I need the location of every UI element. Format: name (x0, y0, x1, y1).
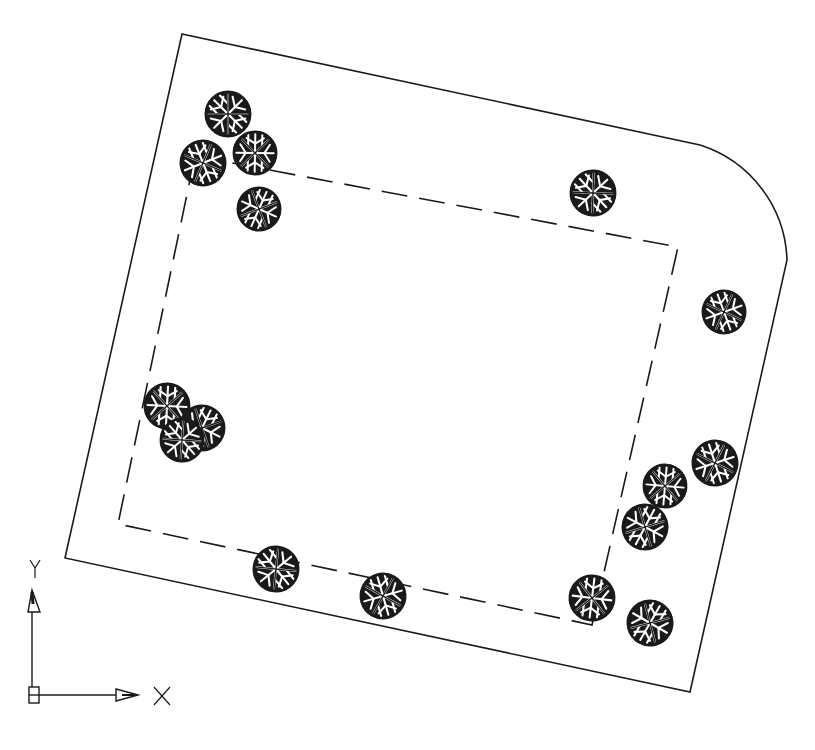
x-axis-label-glyph (154, 687, 170, 705)
site-plan-drawing: X Y (0, 0, 815, 750)
inner-setback-dashed (118, 156, 678, 625)
tree-symbol-icon (231, 181, 288, 238)
tree-symbol-icon (205, 91, 251, 137)
tree-symbol-icon (569, 169, 617, 217)
tree-symbol-icon (560, 566, 625, 631)
tree-symbol-icon (173, 133, 233, 193)
tree-symbol-icon (251, 544, 302, 595)
tree-symbol-icon (352, 565, 415, 628)
y-axis-label-glyph (30, 560, 40, 578)
tree-symbol-icon (622, 595, 678, 651)
tree-symbol-icon (695, 283, 753, 341)
ucs-icon (28, 560, 170, 705)
tree-group (135, 91, 754, 651)
outer-boundary (65, 34, 787, 692)
